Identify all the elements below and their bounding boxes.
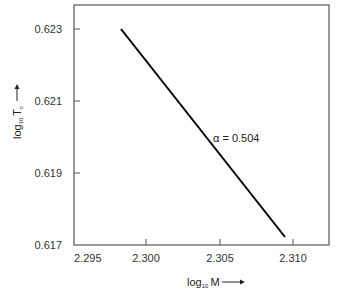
x-tick-label: 2.310 [279, 252, 307, 264]
y-label-var-sub: c [18, 106, 24, 109]
svg-text:log10M: log10M [187, 276, 220, 289]
y-axis-label: log10Tc [11, 84, 24, 139]
x-axis: 2.295 2.300 2.305 2.310 [74, 239, 307, 264]
x-label-sub: 10 [202, 283, 209, 289]
x-tick-label: 2.305 [206, 252, 234, 264]
x-tick-label: 2.300 [132, 252, 160, 264]
y-label-sub: 10 [18, 117, 24, 124]
y-tick-label: 0.621 [34, 95, 62, 107]
y-tick-label: 0.619 [34, 167, 62, 179]
x-arrowhead-icon [240, 280, 245, 285]
x-label-log: log [187, 276, 202, 288]
alpha-annotation: α = 0.504 [213, 132, 259, 144]
data-line [121, 29, 285, 237]
y-tick-label: 0.623 [34, 23, 62, 35]
svg-text:log10Tc: log10Tc [11, 106, 24, 139]
x-axis-label: log10M [187, 276, 245, 289]
plot-frame [74, 5, 329, 245]
y-arrowhead-icon [15, 84, 20, 89]
x-tick-label: 2.295 [74, 252, 102, 264]
y-label-log: log [11, 124, 23, 139]
y-axis: 0.623 0.621 0.619 0.617 [34, 23, 80, 251]
y-tick-label: 0.617 [34, 239, 62, 251]
x-label-var: M [210, 276, 219, 288]
chart: 0.623 0.621 0.619 0.617 2.295 2.300 2.30… [0, 0, 340, 296]
